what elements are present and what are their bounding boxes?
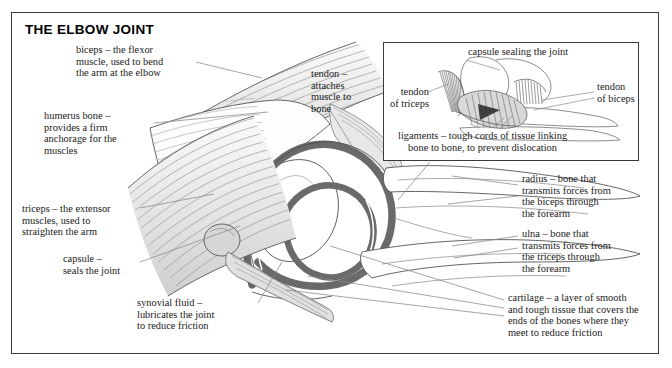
label-humerus-line-4: muscles — [44, 145, 117, 157]
label-tendon: tendon – attaches muscle to bone — [311, 68, 351, 114]
label-biceps-line-2: muscle, used to bend — [76, 56, 163, 68]
label-tendon-of-triceps: tendon of triceps — [390, 86, 429, 109]
label-ulna-line-1: ulna – bone that — [522, 228, 611, 240]
label-biceps: biceps – the flexor muscle, used to bend… — [76, 44, 163, 79]
label-capsule-sealing-joint: capsule sealing the joint — [468, 46, 568, 58]
label-cartilage-line-3: ends of the bones where they — [508, 315, 639, 327]
label-humerus-line-3: anchorage for the — [44, 133, 117, 145]
label-tendon-line-1: tendon – — [311, 68, 351, 80]
label-ulna-line-4: the forearm — [522, 263, 611, 275]
label-cartilage-line-4: meet to reduce friction — [508, 327, 639, 339]
label-tendon-line-2: attaches — [311, 80, 351, 92]
label-cartilage-line-2: and tough tissue that covers the — [508, 304, 639, 316]
label-capsule-sealing-line-1: capsule sealing the joint — [468, 46, 568, 58]
label-ligaments-line-1: ligaments – tough cords of tissue linkin… — [398, 130, 567, 142]
label-tendon-of-biceps: tendon of biceps — [597, 81, 635, 104]
label-humerus-line-1: humerus bone – — [44, 110, 117, 122]
label-radius-line-3: the biceps through — [522, 196, 611, 208]
label-capsule: capsule – seals the joint — [63, 253, 120, 276]
label-radius: radius – bone that transmits forces from… — [522, 173, 611, 219]
label-radius-line-1: radius – bone that — [522, 173, 611, 185]
page-title-text: THE ELBOW JOINT — [25, 22, 154, 37]
label-cartilage-line-1: cartilage – a layer of smooth — [508, 292, 639, 304]
page-title: THE ELBOW JOINT — [25, 22, 154, 37]
label-capsule-line-2: seals the joint — [63, 265, 120, 277]
label-biceps-line-1: biceps – the flexor — [76, 44, 163, 56]
label-triceps-line-3: straighten the arm — [22, 226, 111, 238]
label-ulna: ulna – bone that transmits forces from t… — [522, 228, 611, 274]
elbow-joint-diagram: THE ELBOW JOINT biceps – the flexor musc… — [0, 0, 672, 368]
label-ligaments: ligaments – tough cords of tissue linkin… — [398, 130, 567, 153]
label-synovial-line-2: lubricates the joint — [137, 309, 214, 321]
label-synovial-fluid: synovial fluid – lubricates the joint to… — [137, 297, 214, 332]
label-tendon-triceps-line-1: tendon — [390, 86, 429, 98]
label-triceps: triceps – the extensor muscles, used to … — [22, 203, 111, 238]
label-ligaments-line-2: bone to bone, to prevent dislocation — [398, 142, 567, 154]
label-tendon-line-4: bone — [311, 103, 351, 115]
label-radius-line-2: transmits forces from — [522, 185, 611, 197]
label-humerus: humerus bone – provides a firm anchorage… — [44, 110, 117, 156]
label-tendon-triceps-line-2: of triceps — [390, 98, 429, 110]
label-ulna-line-2: transmits forces from — [522, 240, 611, 252]
label-synovial-line-3: to reduce friction — [137, 320, 214, 332]
label-radius-line-4: the forearm — [522, 208, 611, 220]
label-tendon-line-3: muscle to — [311, 91, 351, 103]
label-triceps-line-1: triceps – the extensor — [22, 203, 111, 215]
label-cartilage: cartilage – a layer of smooth and tough … — [508, 292, 639, 338]
label-triceps-line-2: muscles, used to — [22, 215, 111, 227]
label-humerus-line-2: provides a firm — [44, 122, 117, 134]
label-ulna-line-3: the triceps through — [522, 251, 611, 263]
label-synovial-line-1: synovial fluid – — [137, 297, 214, 309]
label-tendon-biceps-line-1: tendon — [597, 81, 635, 93]
label-capsule-line-1: capsule – — [63, 253, 120, 265]
label-biceps-line-3: the arm at the elbow — [76, 67, 163, 79]
label-tendon-biceps-line-2: of biceps — [597, 93, 635, 105]
